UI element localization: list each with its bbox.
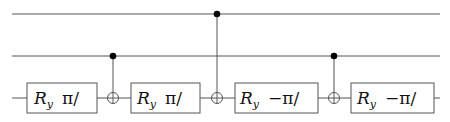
cnot-gate-3 <box>329 53 340 104</box>
rotation-gate-2: Ryπ/ <box>131 83 200 113</box>
svg-text:Ry−π/: Ry−π/ <box>239 88 299 111</box>
gate-3-subscript: y <box>252 98 260 111</box>
gate-3-arg: −π/ <box>268 88 299 108</box>
gate-2-subscript: y <box>149 98 157 111</box>
gate-1-arg: π/ <box>62 88 79 108</box>
gate-1-subscript: y <box>46 98 54 111</box>
gate-2-arg: π/ <box>165 88 182 108</box>
gate-2-symbol: R <box>136 88 150 108</box>
rotation-gate-3: Ry−π/ <box>235 83 318 113</box>
control-dot <box>110 53 117 60</box>
gate-4-subscript: y <box>369 98 377 111</box>
gate-4-symbol: R <box>356 88 370 108</box>
gate-1-symbol: R <box>33 88 47 108</box>
control-dot <box>331 53 338 60</box>
gate-4-arg: −π/ <box>385 88 416 108</box>
cnot-gate-1 <box>108 53 119 104</box>
rotation-gate-1: Ryπ/ <box>27 83 97 113</box>
svg-text:Ry−π/: Ry−π/ <box>356 88 416 111</box>
quantum-circuit: Ryπ/ Ryπ/ Ry−π/ Ry−π/ <box>0 0 450 122</box>
gate-3-symbol: R <box>239 88 253 108</box>
rotation-gate-4: Ry−π/ <box>351 83 434 113</box>
cnot-gate-2 <box>212 11 223 104</box>
control-dot <box>214 11 221 18</box>
